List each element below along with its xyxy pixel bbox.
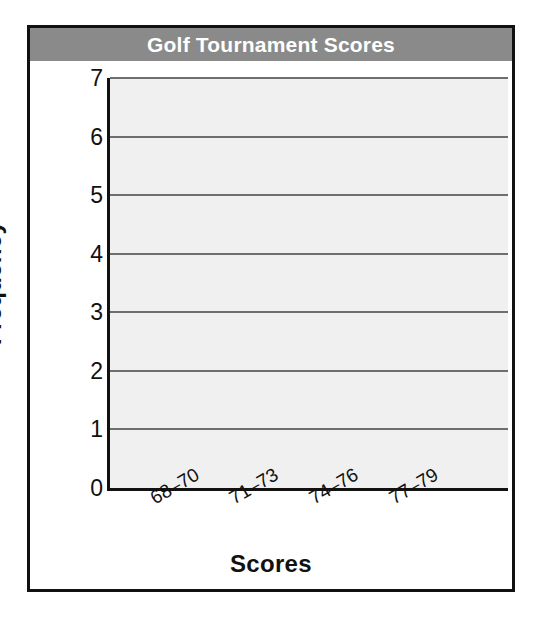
y-axis-title: Frequency (0, 78, 8, 488)
gridline (110, 428, 508, 430)
y-tick-label: 3 (90, 301, 103, 324)
gridline (110, 77, 508, 79)
y-tick-label: 5 (90, 184, 103, 207)
y-tick-label: 1 (90, 418, 103, 441)
chart-title: Golf Tournament Scores (147, 33, 395, 57)
gridline (110, 194, 508, 196)
y-tick-label: 6 (90, 125, 103, 148)
chart-figure-frame: Golf Tournament Scores Frequency 7654321… (27, 25, 515, 592)
y-tick-label: 7 (90, 67, 103, 90)
plot-area (107, 78, 508, 491)
gridline (110, 253, 508, 255)
y-tick-label: 4 (90, 242, 103, 265)
x-axis-tick-labels: 68–7071–7374–7677–79 (107, 491, 505, 551)
gridline (110, 370, 508, 372)
gridlines (110, 78, 508, 488)
y-tick-label: 0 (90, 477, 103, 500)
x-axis-title: Scores (30, 550, 512, 578)
y-axis-tick-labels: 76543210 (70, 78, 103, 488)
gridline (110, 136, 508, 138)
y-tick-label: 2 (90, 359, 103, 382)
gridline (110, 311, 508, 313)
chart-title-band: Golf Tournament Scores (30, 28, 512, 61)
